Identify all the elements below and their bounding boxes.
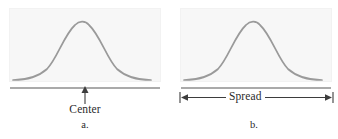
bell-curve-b — [180, 9, 332, 91]
spread-right-arrowhead — [325, 94, 332, 100]
spread-label: Spread — [226, 90, 265, 103]
spread-left-arrowhead — [181, 94, 188, 100]
panel-b-sublabel: b. — [170, 119, 338, 131]
bell-curve-a — [9, 9, 161, 91]
panel-a-sublabel: a. — [0, 119, 170, 131]
center-label: Center — [0, 103, 170, 116]
statistics-figure: Center a. Spread b. — [0, 0, 338, 139]
